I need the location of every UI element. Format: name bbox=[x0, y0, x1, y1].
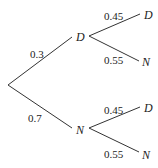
prob-D-N: 0.55 bbox=[104, 55, 123, 66]
prob-root-N: 0.7 bbox=[28, 113, 42, 124]
prob-D-D: 0.45 bbox=[104, 11, 123, 22]
prob-root-D: 0.3 bbox=[30, 49, 44, 60]
leaf-D-N: N bbox=[142, 56, 150, 68]
tree-branches bbox=[0, 0, 158, 168]
leaf-D-D: D bbox=[144, 9, 153, 21]
leaf-N-N: N bbox=[142, 149, 150, 161]
node-N: N bbox=[76, 124, 84, 136]
prob-N-D: 0.45 bbox=[104, 105, 123, 116]
branch-root-D bbox=[8, 37, 72, 85]
leaf-N-D: D bbox=[144, 102, 153, 114]
node-D: D bbox=[76, 31, 85, 43]
prob-N-N: 0.55 bbox=[104, 149, 123, 160]
